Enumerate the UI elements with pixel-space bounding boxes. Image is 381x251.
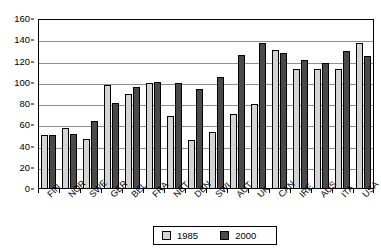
bar-ita-1985 (335, 69, 342, 189)
bar-den-1985 (188, 140, 195, 189)
bar-uk-1985 (251, 104, 258, 189)
legend-swatch-1985-icon (162, 231, 171, 240)
bar-group (164, 19, 185, 189)
y-axis-tick-label: 80 (19, 99, 30, 109)
bar-aus-2000 (322, 63, 329, 189)
bar-aus-1985 (314, 69, 321, 189)
legend-item-1985: 1985 (162, 231, 198, 241)
bar-can-1985 (272, 50, 279, 189)
bar-ire-2000 (301, 60, 308, 189)
bar-bel-2000 (133, 87, 140, 189)
bar-group (122, 19, 143, 189)
bar-ger-2000 (112, 103, 119, 189)
bar-group (206, 19, 227, 189)
y-axis-tick (31, 189, 34, 190)
y-axis-tick (31, 167, 34, 168)
bar-fra-1985 (146, 83, 153, 189)
bar-ire-1985 (293, 69, 300, 189)
bar-swi-1985 (209, 132, 216, 189)
bar-den-2000 (196, 89, 203, 189)
bar-nor-2000 (70, 134, 77, 189)
y-axis-tick (31, 104, 34, 105)
bar-group (311, 19, 332, 189)
bar-bel-1985 (125, 94, 132, 189)
legend-label-1985: 1985 (177, 231, 198, 241)
bar-fin-1985 (41, 135, 48, 189)
bar-fra-2000 (154, 82, 161, 189)
y-axis-tick-label: 0 (25, 184, 30, 194)
bar-usa-2000 (364, 56, 371, 189)
bar-uk-2000 (259, 43, 266, 189)
y-axis-tick (31, 61, 34, 62)
bar-group (185, 19, 206, 189)
y-axis-tick (31, 40, 34, 41)
y-axis-tick-label: 100 (14, 78, 30, 88)
bar-swi-2000 (217, 77, 224, 189)
y-axis-tick-label: 40 (19, 142, 30, 152)
bar-group (80, 19, 101, 189)
legend-label-2000: 2000 (235, 231, 256, 241)
y-axis-tick (31, 125, 34, 126)
y-axis-tick (31, 82, 34, 83)
bar-chart: 020406080100120140160 FINNORSWEGERBELFRA… (0, 0, 381, 251)
bar-ger-1985 (104, 85, 111, 189)
bar-net-2000 (175, 83, 182, 189)
bar-group (269, 19, 290, 189)
bar-group (143, 19, 164, 189)
bar-nor-1985 (62, 128, 69, 189)
legend-swatch-2000-icon (220, 231, 229, 240)
y-axis-tick-label: 160 (14, 14, 30, 24)
bar-aut-2000 (238, 55, 245, 189)
bar-ita-2000 (343, 51, 350, 189)
bar-group (290, 19, 311, 189)
bar-group (38, 19, 59, 189)
y-axis-tick-label: 120 (14, 57, 30, 67)
legend-item-2000: 2000 (220, 231, 256, 241)
y-axis-tick (31, 146, 34, 147)
y-axis-tick-label: 140 (14, 36, 30, 46)
bars-layer (38, 19, 374, 189)
y-axis-tick-label: 20 (19, 163, 30, 173)
y-axis-tick-label: 60 (19, 121, 30, 131)
bar-swe-2000 (91, 121, 98, 189)
bar-group (332, 19, 353, 189)
x-axis-labels: FINNORSWEGERBELFRANETDENSWIAUTUKCANIREAU… (38, 193, 374, 227)
bar-group (227, 19, 248, 189)
bar-group (248, 19, 269, 189)
bar-group (101, 19, 122, 189)
bar-can-2000 (280, 53, 287, 189)
y-axis: 020406080100120140160 (0, 19, 34, 189)
y-axis-tick (31, 19, 34, 20)
bar-aut-1985 (230, 114, 237, 189)
bar-usa-1985 (356, 43, 363, 189)
bar-group (353, 19, 374, 189)
chart-legend: 1985 2000 (153, 226, 277, 245)
bar-group (59, 19, 80, 189)
bar-net-1985 (167, 116, 174, 189)
